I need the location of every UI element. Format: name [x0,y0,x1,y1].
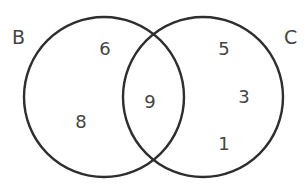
region-intersection-value: 9 [144,91,155,112]
set-c-label: C [284,26,297,48]
region-c-only-value: 3 [238,86,249,107]
region-b-only-value: 8 [75,111,86,132]
set-b-label: B [12,26,25,48]
region-b-only-value: 6 [99,38,110,59]
region-c-only-value: 1 [218,133,229,154]
venn-diagram: B C 6 8 9 5 3 1 [0,0,308,193]
region-c-only-value: 5 [218,38,229,59]
